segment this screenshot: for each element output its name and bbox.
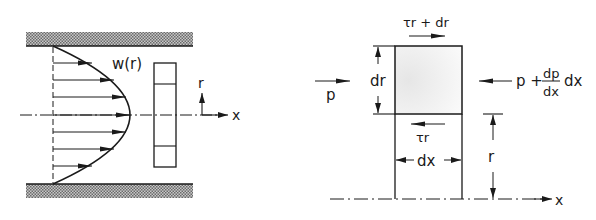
r-axis-label: r — [198, 75, 204, 91]
x-axis-label: x — [232, 107, 240, 123]
top-wall — [26, 32, 193, 46]
velocity-arrows — [53, 63, 130, 166]
diagram-canvas: w(r) r x x τr + dr τr p — [0, 0, 596, 220]
height-dimension-label: dr — [370, 72, 387, 90]
svg-text:p +: p + — [516, 72, 543, 90]
width-dimension-label: dx — [417, 152, 436, 170]
svg-text:dx: dx — [543, 84, 559, 99]
radius-dimension-label: r — [488, 148, 495, 166]
profile-label: w(r) — [112, 55, 142, 73]
top-shear-label: τr + dr — [403, 15, 450, 30]
svg-text:dx: dx — [564, 72, 583, 90]
bottom-axis-label: x — [555, 192, 563, 208]
left-pressure-label: p — [326, 86, 336, 104]
fluid-element-panel: x τr + dr τr p dr p + dp dx dx dx r — [315, 15, 583, 208]
velocity-profile-panel: w(r) r x — [20, 32, 240, 198]
right-pressure-label: p + dp dx dx — [516, 66, 583, 99]
bottom-shear-label: τr — [416, 130, 430, 145]
fluid-element — [395, 46, 462, 114]
bottom-wall — [26, 184, 193, 198]
svg-text:dp: dp — [543, 66, 560, 81]
